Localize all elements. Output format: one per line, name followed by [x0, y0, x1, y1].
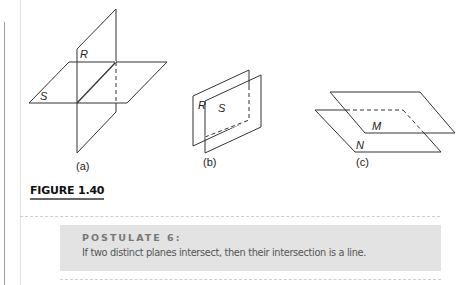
plane-label-n-c: N [356, 139, 364, 151]
panel-a-diagram [29, 9, 167, 153]
panel-label-c: (c) [356, 156, 369, 168]
plane-label-s-b: S [218, 102, 225, 114]
panel-label-a: (a) [76, 160, 89, 172]
figure-caption: FIGURE 1.40 [30, 184, 104, 200]
postulate-box: POSTULATE 6: If two distinct planes inte… [60, 225, 441, 271]
panel-c-diagram [315, 92, 455, 152]
plane-label-r-b: R [198, 99, 206, 111]
postulate-title: POSTULATE 6: [82, 232, 181, 243]
plane-label-s-a: S [40, 90, 47, 102]
plane-label-r-a: R [80, 48, 88, 60]
panel-label-b: (b) [203, 156, 216, 168]
bottom-divider [60, 279, 441, 280]
panel-b-diagram [193, 70, 261, 153]
postulate-text: If two distinct planes intersect, then t… [82, 247, 366, 258]
section-divider [20, 216, 440, 217]
plane-label-m-c: M [372, 120, 381, 132]
